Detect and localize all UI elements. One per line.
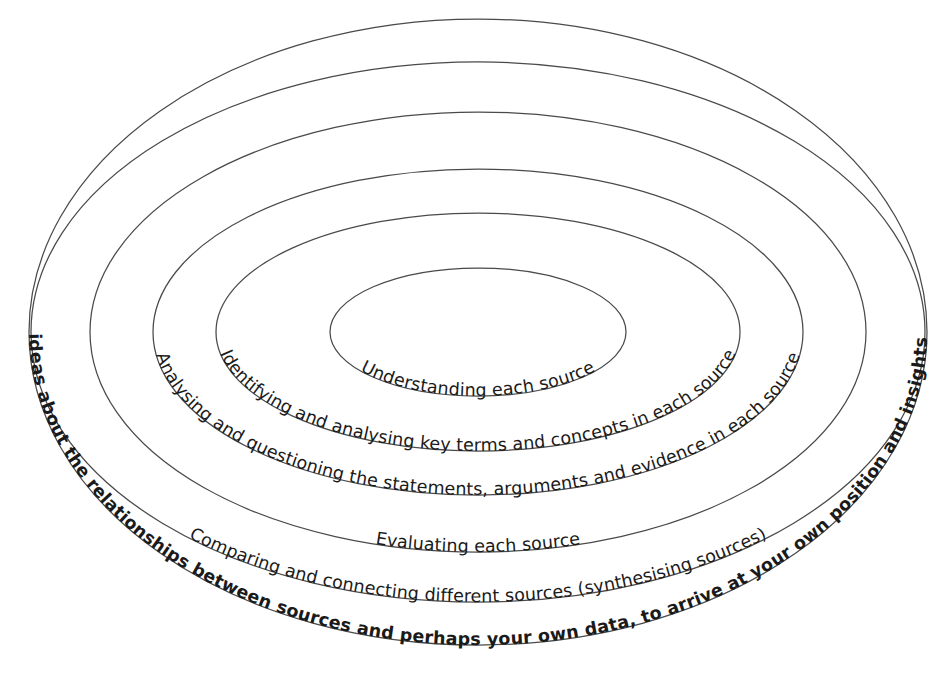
ring-label-2: Identifying and analysing key terms and … [216, 346, 739, 455]
ring-label-innermost-text: Understanding each source [358, 357, 597, 400]
ring-label-4-text: Evaluating each source [375, 528, 582, 556]
ring-label-2-text: Identifying and analysing key terms and … [216, 346, 739, 455]
ellipse-ring-5 [31, 62, 925, 602]
ring-label-4-evaluating: Evaluating each source [375, 528, 582, 556]
nested-ellipse-diagram: Using your ideas about the relationships… [0, 0, 950, 687]
diagram-canvas: Using your ideas about the relationships… [0, 0, 950, 687]
ring-label-innermost: Understanding each source [358, 357, 597, 400]
ring-label-5-text: Comparing and connecting different sourc… [187, 523, 770, 606]
ring-label-5: Comparing and connecting different sourc… [187, 523, 770, 606]
